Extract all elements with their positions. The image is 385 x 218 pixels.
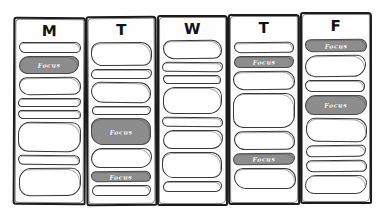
time-block[interactable] bbox=[162, 62, 223, 72]
day-column-wednesday[interactable]: W bbox=[157, 15, 228, 206]
time-block[interactable] bbox=[91, 148, 152, 168]
time-block[interactable] bbox=[19, 168, 81, 196]
day-header-thursday: T bbox=[228, 18, 300, 37]
time-block[interactable] bbox=[162, 152, 222, 178]
focus-block[interactable]: Focus bbox=[19, 56, 79, 74]
time-block[interactable] bbox=[305, 80, 365, 92]
focus-block-label: Focus bbox=[20, 61, 78, 69]
time-block[interactable] bbox=[234, 42, 294, 53]
time-block[interactable] bbox=[19, 42, 81, 53]
focus-block[interactable]: Focus bbox=[91, 171, 151, 182]
focus-block[interactable]: Focus bbox=[305, 95, 367, 115]
focus-block[interactable]: Focus bbox=[234, 56, 294, 68]
focus-block-label: Focus bbox=[92, 127, 150, 135]
time-block[interactable] bbox=[162, 117, 223, 127]
time-block[interactable] bbox=[91, 82, 151, 104]
time-block[interactable] bbox=[92, 185, 151, 196]
time-block[interactable] bbox=[18, 98, 81, 107]
time-block[interactable] bbox=[163, 130, 223, 149]
time-block[interactable] bbox=[305, 175, 366, 194]
day-column-thursday[interactable]: TFocusFocus bbox=[228, 14, 300, 205]
time-block[interactable] bbox=[233, 93, 295, 128]
time-block[interactable] bbox=[163, 87, 222, 114]
time-block[interactable] bbox=[163, 40, 222, 59]
day-column-monday[interactable]: MFocus bbox=[13, 17, 86, 205]
time-block[interactable] bbox=[91, 42, 153, 66]
time-block[interactable] bbox=[91, 69, 152, 79]
focus-block-label: Focus bbox=[92, 172, 150, 181]
focus-block[interactable]: Focus bbox=[233, 153, 295, 166]
time-block[interactable] bbox=[306, 160, 367, 172]
weekly-planner-board: MFocusTFocusFocusWTFocusFocusFFocusFocus bbox=[0, 0, 385, 218]
focus-block[interactable]: Focus bbox=[305, 39, 367, 52]
time-block[interactable] bbox=[234, 168, 296, 189]
day-header-friday: F bbox=[300, 17, 372, 35]
time-block[interactable] bbox=[19, 77, 81, 95]
time-block[interactable] bbox=[163, 181, 222, 192]
day-header-monday: M bbox=[13, 22, 86, 41]
focus-block-label: Focus bbox=[306, 101, 366, 110]
time-block[interactable] bbox=[92, 106, 151, 115]
focus-block-label: Focus bbox=[235, 58, 293, 66]
day-column-tuesday[interactable]: TFocusFocus bbox=[86, 16, 157, 206]
day-header-wednesday: W bbox=[157, 20, 228, 38]
time-block[interactable] bbox=[233, 71, 295, 90]
time-block[interactable] bbox=[18, 155, 80, 165]
time-block[interactable] bbox=[163, 75, 221, 84]
time-block[interactable] bbox=[305, 55, 367, 78]
time-block[interactable] bbox=[234, 131, 295, 150]
time-block[interactable] bbox=[306, 118, 367, 143]
day-column-friday[interactable]: FFocusFocus bbox=[300, 12, 372, 204]
day-header-tuesday: T bbox=[86, 21, 157, 40]
focus-block-label: Focus bbox=[234, 155, 294, 164]
time-block[interactable] bbox=[18, 110, 81, 119]
focus-block-label: Focus bbox=[306, 41, 366, 50]
time-block[interactable] bbox=[18, 122, 81, 153]
focus-block[interactable]: Focus bbox=[91, 118, 151, 145]
time-block[interactable] bbox=[306, 145, 366, 157]
